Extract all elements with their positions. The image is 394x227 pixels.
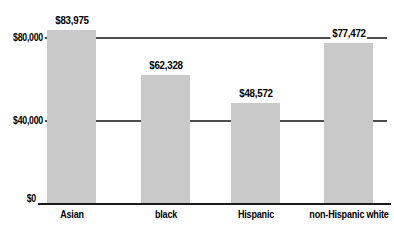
bar-black [141,75,190,204]
category-label: black [154,209,176,220]
category-label: Hispanic [237,209,273,220]
category-label: Asian [60,209,84,220]
x-axis-line [38,203,391,205]
bar-hispanic [231,103,280,204]
y-axis-tick-label: $40,000 [5,115,43,127]
y-axis-tick-label: $80,000 [5,32,43,44]
bar-value-label: $77,472 [330,27,367,40]
category-label: non-Hispanic white [309,209,388,220]
bar-value-label: $48,572 [237,87,274,100]
bar-value-label: $62,328 [147,59,184,72]
bar-non-hispanic-white [324,43,373,204]
income-by-race-bar-chart: $0$40,000$80,000$83,975$62,328$48,572$77… [0,0,394,227]
bar-value-label: $83,975 [53,14,90,27]
bar-asian [47,30,96,204]
y-axis-tick-label: $0 [4,193,36,205]
